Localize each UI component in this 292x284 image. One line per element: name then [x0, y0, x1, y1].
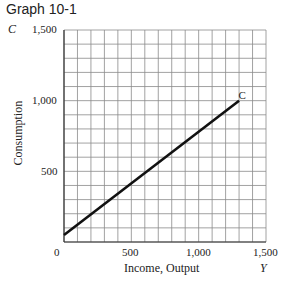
curve-label: C [238, 89, 245, 101]
plot-area: C [0, 0, 292, 284]
consumption-line [64, 101, 239, 235]
